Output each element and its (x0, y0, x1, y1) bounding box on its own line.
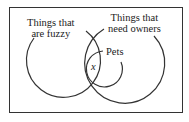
label-fuzzy-line2: are fuzzy (27, 28, 75, 39)
region-marker-x: x (91, 61, 96, 72)
label-fuzzy-line1: Things that (27, 17, 75, 28)
circle-need-owners (85, 29, 165, 103)
label-owners-line2: need owners (108, 23, 161, 34)
circle-fuzzy (26, 31, 100, 97)
label-fuzzy: Things that are fuzzy (27, 17, 75, 39)
label-pets: Pets (106, 46, 124, 57)
label-need-owners: Things that need owners (108, 12, 161, 34)
label-owners-line1: Things that (108, 12, 161, 23)
